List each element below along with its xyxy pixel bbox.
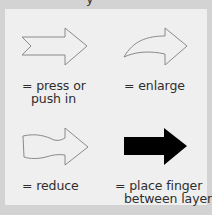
arrow-legend-panel: = press or push in = enlarge = reduce = … xyxy=(5,9,207,205)
outline-curved-arrow-icon xyxy=(123,27,189,67)
legend-label-line2: between layers xyxy=(115,192,212,205)
legend-label-reduce: = reduce xyxy=(22,179,79,192)
cut-off-heading: y xyxy=(86,0,94,6)
solid-black-arrow-icon xyxy=(124,128,188,166)
legend-label-line1: = enlarge xyxy=(124,78,185,93)
legend-label-place-finger: = place finger between layers xyxy=(115,179,212,205)
outline-notched-arrow-icon xyxy=(21,27,89,67)
outline-wavy-arrow-icon xyxy=(22,127,90,167)
legend-label-line2: push in xyxy=(22,92,86,105)
legend-label-enlarge: = enlarge xyxy=(124,79,185,92)
legend-label-press: = press or push in xyxy=(22,79,86,105)
legend-label-line1: = reduce xyxy=(22,178,79,193)
